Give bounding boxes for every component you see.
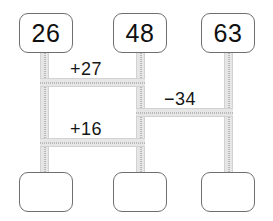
top-node-middle[interactable]: 48 — [113, 13, 167, 53]
top-node-left[interactable]: 26 — [19, 13, 73, 53]
connector-horizontal-plus-27 — [40, 78, 145, 87]
bottom-node-middle[interactable] — [113, 172, 167, 212]
operation-label-minus-34: −34 — [164, 90, 196, 108]
operation-label-plus-16: +16 — [70, 120, 102, 138]
connector-vertical-left — [40, 40, 49, 180]
connector-horizontal-minus-34 — [136, 108, 233, 117]
bottom-node-right[interactable] — [201, 172, 255, 212]
top-node-right[interactable]: 63 — [201, 13, 255, 53]
bottom-node-left[interactable] — [19, 172, 73, 212]
operation-label-plus-27: +27 — [70, 60, 102, 78]
top-node-right-value: 63 — [214, 21, 243, 46]
top-node-middle-value: 48 — [126, 21, 155, 46]
top-node-left-value: 26 — [32, 21, 61, 46]
diagram-canvas: 26 48 63 +27 −34 +16 — [0, 0, 273, 221]
connector-horizontal-plus-16 — [40, 138, 145, 147]
